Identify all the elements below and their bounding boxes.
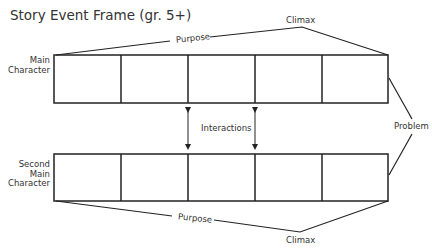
second-main-character-label: Second Main Character	[2, 160, 50, 189]
main-character-label: Main Character	[2, 56, 50, 75]
label-line: Character	[2, 179, 50, 189]
main-character-boxes	[54, 55, 388, 103]
label-line: Character	[2, 66, 50, 76]
plot-line-top	[56, 27, 388, 55]
plot-line-bottom	[56, 201, 388, 232]
interactions-label: Interactions	[201, 124, 252, 134]
climax-bottom-label: Climax	[286, 236, 315, 246]
climax-top-label: Climax	[286, 16, 315, 26]
problem-label: Problem	[394, 122, 429, 132]
second-character-boxes	[54, 154, 388, 201]
